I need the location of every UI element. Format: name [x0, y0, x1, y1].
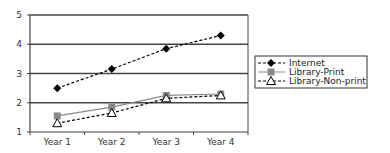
square-icon	[268, 69, 275, 76]
series-library-print	[54, 90, 225, 119]
x-tick-label: Year 4	[206, 137, 235, 147]
data-point	[162, 45, 170, 53]
x-tick-label: Year 3	[151, 137, 180, 147]
data-point	[108, 65, 116, 73]
legend: InternetLibrary-PrintLibrary-Non-print	[255, 56, 367, 88]
line-chart: 12345 Year 1Year 2Year 3Year 4 InternetL…	[0, 0, 390, 153]
x-tick-label: Year 1	[42, 137, 71, 147]
series-line	[57, 95, 221, 123]
x-axis: Year 1Year 2Year 3Year 4	[30, 132, 248, 147]
data-point	[217, 31, 225, 39]
y-tick-label: 4	[16, 39, 22, 49]
series-lines	[53, 31, 226, 126]
y-tick-label: 3	[16, 69, 22, 79]
y-tick-label: 5	[16, 10, 22, 20]
y-tick-label: 2	[16, 98, 22, 108]
data-point	[53, 84, 61, 92]
y-tick-label: 1	[16, 127, 22, 137]
series-internet	[53, 31, 225, 92]
legend-label: Library-Non-print	[289, 76, 366, 86]
series-line	[57, 35, 221, 88]
series-library-non-print	[53, 91, 226, 127]
data-point	[53, 119, 62, 127]
x-tick-label: Year 2	[97, 137, 126, 147]
y-axis: 12345	[16, 10, 30, 137]
